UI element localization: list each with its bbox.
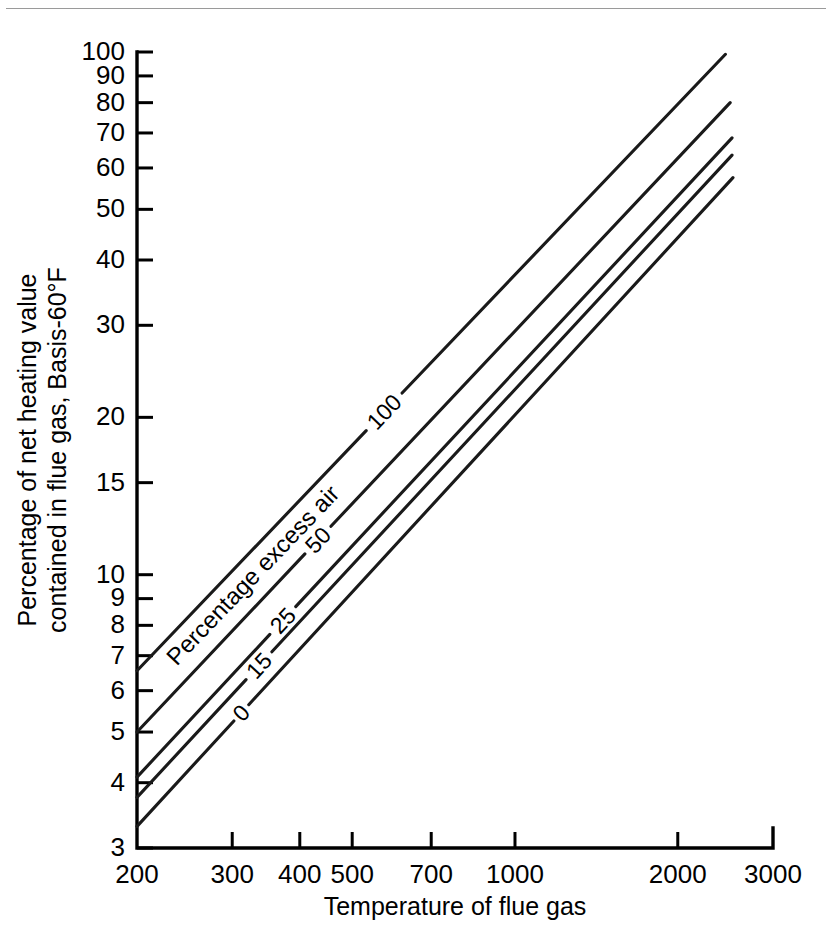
y-tick-label-7: 7 bbox=[111, 640, 125, 670]
curve-excess-air-0 bbox=[137, 178, 733, 827]
x-tick-label-300: 300 bbox=[211, 859, 254, 889]
curve-label-100: 100 bbox=[361, 389, 406, 435]
x-tick-label-200: 200 bbox=[115, 859, 158, 889]
y-tick-label-50: 50 bbox=[96, 193, 125, 223]
x-tick-label-1000: 1000 bbox=[486, 859, 544, 889]
axis-lines bbox=[137, 52, 773, 848]
y-axis-title-line1: Percentage of net heating value bbox=[13, 273, 41, 626]
x-axis-title: Temperature of flue gas bbox=[324, 892, 587, 920]
y-tick-label-3: 3 bbox=[111, 832, 125, 862]
curve-excess-air-25 bbox=[137, 138, 732, 777]
figure-container: 345678910152030405060708090100 200300400… bbox=[0, 0, 834, 947]
x-tick-label-700: 700 bbox=[410, 859, 453, 889]
x-tick-label-2000: 2000 bbox=[649, 859, 707, 889]
y-axis-tick-labels: 345678910152030405060708090100 bbox=[82, 36, 125, 862]
axes-group bbox=[137, 52, 773, 848]
y-tick-label-6: 6 bbox=[111, 675, 125, 705]
x-axis-ticks bbox=[232, 832, 678, 848]
x-tick-label-400: 400 bbox=[278, 859, 321, 889]
figure-bottom-caption: ········································… bbox=[40, 936, 800, 945]
y-tick-label-80: 80 bbox=[96, 87, 125, 117]
curve-excess-air-50 bbox=[137, 103, 730, 732]
y-tick-label-60: 60 bbox=[96, 152, 125, 182]
x-axis-tick-labels: 200300400500700100020003000 bbox=[115, 859, 802, 889]
series-group-title: Percentage excess air bbox=[161, 480, 345, 670]
y-tick-label-20: 20 bbox=[96, 401, 125, 431]
curve-excess-air-15 bbox=[137, 155, 732, 797]
x-tick-label-500: 500 bbox=[331, 859, 374, 889]
x-tick-label-3000: 3000 bbox=[744, 859, 802, 889]
y-tick-label-30: 30 bbox=[96, 309, 125, 339]
log-log-chart: 345678910152030405060708090100 200300400… bbox=[0, 0, 834, 947]
percentage-excess-air-label: Percentage excess air bbox=[161, 480, 345, 670]
curve-excess-air-100 bbox=[137, 54, 725, 670]
y-tick-label-8: 8 bbox=[111, 609, 125, 639]
y-tick-label-10: 10 bbox=[96, 559, 125, 589]
y-tick-label-40: 40 bbox=[96, 244, 125, 274]
y-tick-label-15: 15 bbox=[96, 467, 125, 497]
data-curves bbox=[137, 54, 733, 826]
y-tick-label-100: 100 bbox=[82, 36, 125, 66]
y-tick-label-5: 5 bbox=[111, 716, 125, 746]
y-tick-label-4: 4 bbox=[111, 767, 125, 797]
y-tick-label-70: 70 bbox=[96, 117, 125, 147]
y-axis-title-line2: contained in flue gas, Basis-60°F bbox=[43, 267, 71, 633]
